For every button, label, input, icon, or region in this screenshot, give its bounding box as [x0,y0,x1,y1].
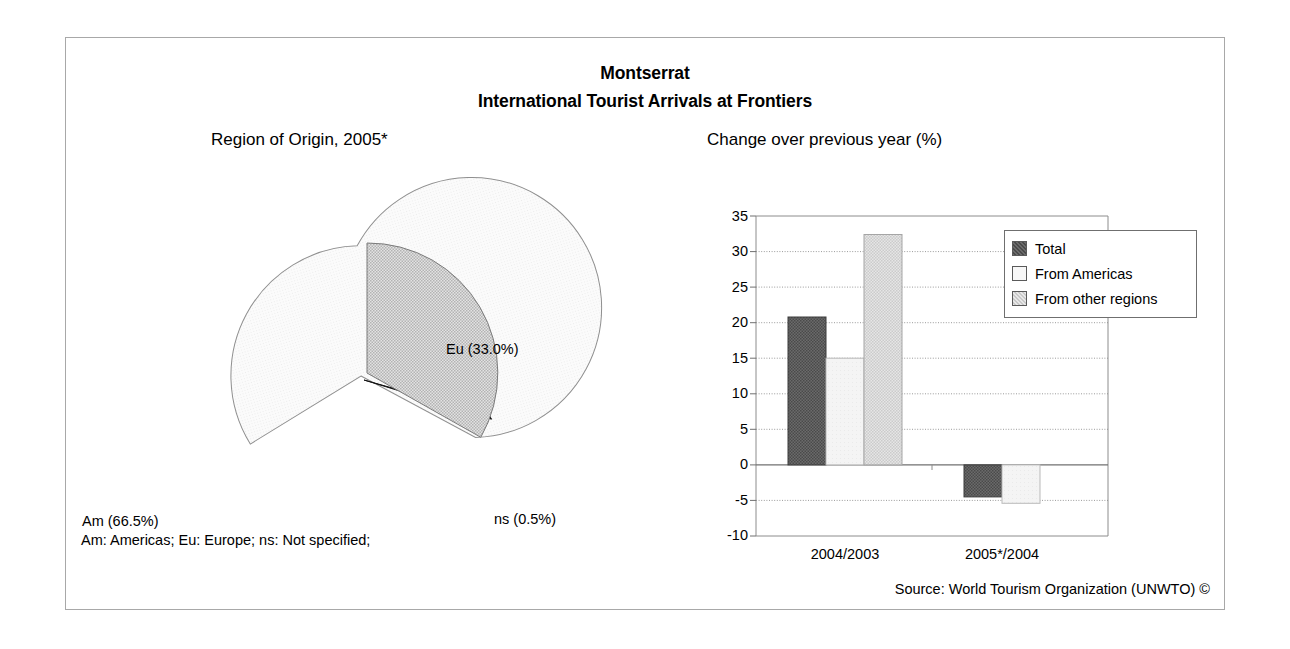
abbreviation-note: Am: Americas; Eu: Europe; ns: Not specif… [81,532,370,548]
legend-item-from-other-regions[interactable]: From other regions [1012,286,1189,311]
bar-panel-title: Change over previous year (%) [707,130,942,150]
legend-item-total[interactable]: Total [1012,236,1189,261]
figure-page: Montserrat International Tourist Arrival… [0,0,1290,649]
figure-frame: Montserrat International Tourist Arrival… [65,37,1225,610]
bar-chart: 35 30 25 20 15 10 5 0 -5 -10 [656,158,1216,578]
legend-label-from-americas: From Americas [1035,266,1133,282]
source-note: Source: World Tourism Organization (UNWT… [895,581,1210,597]
legend-swatch-total [1012,241,1027,256]
bar-total-2005 [964,465,1002,497]
y-axis-ticks [750,216,756,536]
pie-chart: Eu (33.0%) Am (66.5%) ns (0.5%) [76,163,636,493]
chart-main-title: Montserrat [66,63,1224,84]
legend-swatch-from-americas [1012,266,1027,281]
bar-from-other-regions-2004 [864,235,902,465]
bar-chart-svg [656,158,1216,578]
legend-item-from-americas[interactable]: From Americas [1012,261,1189,286]
x-axis-tick-label: 2005*/2004 [952,546,1052,562]
pie-label-ns: ns (0.5%) [494,511,556,527]
bar-from-americas-2005 [1002,465,1040,503]
pie-label-am: Am (66.5%) [82,513,159,529]
x-axis-tick-label: 2004/2003 [795,546,895,562]
bar-total-2004 [788,317,826,465]
legend-label-from-other-regions: From other regions [1035,291,1158,307]
legend-label-total: Total [1035,241,1066,257]
pie-panel-title: Region of Origin, 2005* [211,130,388,150]
chart-subtitle: International Tourist Arrivals at Fronti… [66,91,1224,112]
bar-from-americas-2004 [826,358,864,465]
pie-chart-svg [76,163,636,493]
chart-legend: Total From Americas From other regions [1004,230,1197,318]
legend-swatch-from-other-regions [1012,291,1027,306]
pie-label-eu: Eu (33.0%) [446,341,519,357]
